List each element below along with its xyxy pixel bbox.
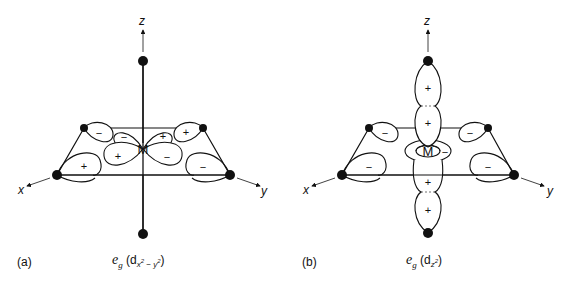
ligand-top: [423, 56, 433, 66]
z-axis-label: z: [424, 15, 430, 27]
sign-back-right-metal: +: [160, 131, 166, 142]
sign-back-right-ligand: +: [183, 127, 189, 138]
panel-a-caption: eg (dx2 − y2): [112, 253, 165, 270]
sign-bottom-ligand: +: [425, 205, 431, 216]
lobe-front-right-ligand-under: [192, 175, 230, 182]
y-axis-label: y: [547, 185, 553, 197]
y-axis-arrow: [237, 178, 260, 186]
x-axis-arrow: [27, 178, 50, 186]
sign-front-right-ligand: −: [200, 162, 206, 173]
ligand-front-left: [52, 170, 62, 180]
metal-center-label: M: [138, 143, 149, 156]
ligand-front-right: [225, 170, 235, 180]
ligand-back-left: [80, 124, 88, 132]
sign-front-left-metal: +: [115, 151, 121, 162]
x-axis-label: x: [303, 184, 309, 196]
lobe-bottom: [413, 160, 442, 233]
lobe-front-right-metal: [143, 142, 182, 165]
panel-a-graphic: [27, 30, 260, 239]
diagram-canvas: [0, 0, 575, 282]
y-axis-label: y: [261, 185, 267, 197]
ligand-back-right: [484, 124, 492, 132]
sign-top-ligand: +: [425, 83, 431, 94]
sign-back-left-ligand: −: [96, 128, 102, 139]
lobe-back-right-ligand: [459, 122, 488, 141]
sign-front-left-ligand: −: [366, 162, 372, 173]
sign-back-left-ligand: −: [382, 128, 388, 139]
lobe-front-left-ligand: [342, 153, 386, 175]
x-axis-label: x: [18, 184, 24, 196]
ligand-front-right: [509, 170, 519, 180]
sign-front-right-metal: −: [164, 152, 170, 163]
z-axis-label: z: [139, 15, 145, 27]
sign-front-right-ligand: −: [485, 162, 491, 173]
x-axis-arrow: [312, 178, 335, 186]
ligand-top: [138, 56, 148, 66]
y-axis-arrow: [521, 178, 544, 186]
ligand-back-left: [365, 124, 373, 132]
lobe-top: [415, 61, 441, 147]
lobe-front-left-ligand-under: [57, 175, 95, 182]
sign-back-right-ligand: −: [467, 128, 473, 139]
panel-a-label: (a): [17, 256, 32, 268]
sign-bottom-metal: +: [425, 177, 431, 188]
metal-center-label: M: [423, 145, 434, 158]
panel-b-label: (b): [302, 256, 317, 268]
lobe-front-left-ligand-under: [342, 175, 380, 182]
sign-top-metal: +: [425, 118, 431, 129]
lobe-front-left-ligand: [57, 153, 101, 175]
panel-b-caption: eg (dz2): [406, 253, 442, 270]
sign-torus: −: [442, 147, 448, 158]
sign-back-left-metal: −: [121, 132, 127, 143]
ligand-back-right: [199, 124, 207, 132]
lobe-front-right-ligand-under: [476, 175, 514, 182]
ligand-bottom: [138, 229, 148, 239]
ligand-front-left: [337, 170, 347, 180]
sign-front-left-ligand: +: [81, 161, 87, 172]
lobe-front-right-ligand: [186, 153, 230, 175]
lobe-front-right-ligand: [470, 153, 514, 175]
ligand-bottom: [423, 228, 433, 238]
